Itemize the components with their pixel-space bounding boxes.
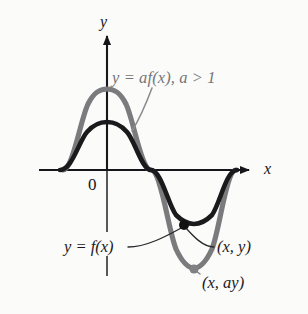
origin-label: 0: [88, 176, 97, 193]
y-axis-label: y: [100, 14, 107, 30]
scaled-point-label-text: (x, ay): [202, 273, 244, 292]
base-point-leader-line: [185, 227, 214, 247]
base-curve: [60, 122, 237, 224]
base-curve-label-text: y = f(x): [64, 237, 114, 256]
scaled-minimum-point: [189, 264, 198, 273]
base-curve-label: y = f(x): [64, 239, 114, 256]
scaled-curve-leader-line: [132, 88, 152, 131]
base-minimum-point: [179, 220, 189, 230]
scaled-curve-label: y = af(x), a > 1: [112, 70, 216, 87]
graph-figure: y x 0 y = af(x), a > 1 y = f(x) (x, y) (…: [0, 0, 308, 314]
graph-canvas: [0, 0, 308, 314]
scaled-point-label: (x, ay): [202, 275, 244, 292]
x-axis-label: x: [264, 161, 271, 177]
base-point-label: (x, y): [217, 239, 251, 256]
base-point-label-text: (x, y): [217, 237, 251, 256]
scaled-curve-label-text: y = af(x), a > 1: [112, 68, 216, 87]
